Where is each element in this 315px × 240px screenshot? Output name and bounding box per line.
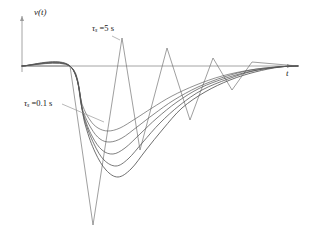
series-path bbox=[22, 62, 298, 177]
series-path bbox=[22, 62, 298, 166]
series-path bbox=[22, 63, 298, 155]
tau-unit: s bbox=[109, 23, 114, 33]
annotation-leader-line bbox=[112, 36, 120, 40]
tau-unit: s bbox=[47, 98, 52, 108]
tau-slow-annotation: τs =5 s bbox=[92, 24, 114, 33]
tau-value: 0.1 bbox=[36, 98, 47, 108]
tau-fast-annotation: τs =0.1 s bbox=[24, 99, 52, 108]
x-axis-label: t bbox=[286, 69, 289, 78]
plot-svg bbox=[0, 0, 315, 240]
figure-canvas: v(t) t τs =0.1 s τs =5 s bbox=[0, 0, 315, 240]
y-axis-label: v(t) bbox=[34, 8, 47, 17]
